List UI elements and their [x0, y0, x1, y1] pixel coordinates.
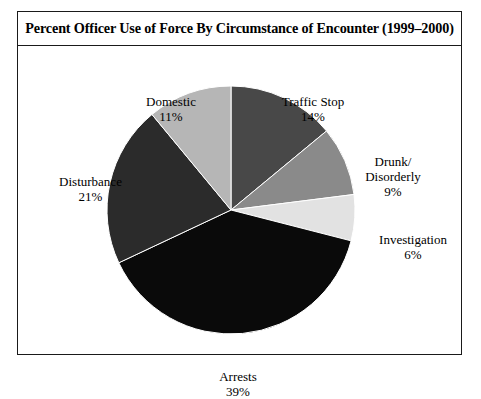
pie-label-domestic: Domestic 11%	[116, 94, 226, 124]
pie-label-disturbance-value: 21%	[28, 189, 153, 204]
pie-label-arrests-name: Arrests	[178, 369, 298, 384]
pie-label-investigation-value: 6%	[348, 247, 478, 262]
pie-label-domestic-value: 11%	[116, 109, 226, 124]
pie-label-investigation: Investigation 6%	[348, 232, 478, 262]
pie-label-drunk-disorderly: Drunk/ Disorderly 9%	[338, 154, 448, 199]
pie-label-investigation-name: Investigation	[348, 232, 478, 247]
pie-label-traffic-stop-value: 14%	[248, 109, 378, 124]
pie-chart-plot-area: Domestic 11% Traffic Stop 14% Drunk/ Dis…	[18, 46, 461, 354]
pie-label-traffic-stop: Traffic Stop 14%	[248, 94, 378, 124]
page-title: Percent Officer Use of Force By Circumst…	[18, 12, 461, 45]
pie-label-domestic-name: Domestic	[116, 94, 226, 109]
pie-label-disturbance: Disturbance 21%	[28, 174, 153, 204]
pie-label-drunk-disorderly-name-line2: Disorderly	[338, 169, 448, 184]
pie-label-arrests-value: 39%	[178, 384, 298, 399]
figure-frame: Percent Officer Use of Force By Circumst…	[17, 11, 462, 355]
pie-label-traffic-stop-name: Traffic Stop	[248, 94, 378, 109]
pie-label-drunk-disorderly-value: 9%	[338, 184, 448, 199]
pie-label-drunk-disorderly-name-line1: Drunk/	[338, 154, 448, 169]
pie-label-arrests: Arrests 39%	[178, 369, 298, 399]
pie-label-disturbance-name: Disturbance	[28, 174, 153, 189]
